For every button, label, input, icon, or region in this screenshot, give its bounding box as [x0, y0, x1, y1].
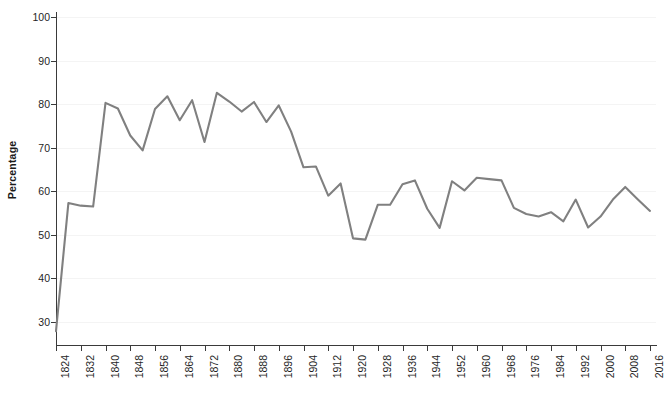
x-tick-mark — [106, 346, 107, 351]
x-tick-label: 1936 — [407, 355, 418, 378]
x-tick-label: 2008 — [629, 355, 640, 378]
x-tick-label: 1848 — [134, 355, 145, 378]
x-tick-mark — [229, 346, 230, 351]
x-tick-mark — [576, 346, 577, 351]
x-tick-label: 1896 — [283, 355, 294, 378]
x-tick-label: 1904 — [308, 355, 319, 378]
y-tick-label: 80 — [20, 99, 50, 110]
x-tick-label: 2016 — [654, 355, 665, 378]
x-tick-label: 1880 — [233, 355, 244, 378]
y-tick-label: 70 — [20, 142, 50, 153]
x-tick-mark — [254, 346, 255, 351]
x-tick-mark — [378, 346, 379, 351]
x-tick-mark — [304, 346, 305, 351]
x-tick-mark — [650, 346, 651, 351]
y-tick-label: 50 — [20, 230, 50, 241]
x-tick-mark — [601, 346, 602, 351]
y-tick-label: 100 — [20, 12, 50, 23]
x-tick-label: 1888 — [258, 355, 269, 378]
x-tick-mark — [180, 346, 181, 351]
x-tick-mark — [452, 346, 453, 351]
x-tick-mark — [502, 346, 503, 351]
x-tick-mark — [625, 346, 626, 351]
x-tick-label: 1952 — [456, 355, 467, 378]
x-tick-mark — [403, 346, 404, 351]
voter-turnout-line-chart: Percentage 30405060708090100182418321840… — [0, 0, 668, 399]
y-tick-label: 30 — [20, 317, 50, 328]
x-tick-label: 1992 — [580, 355, 591, 378]
x-tick-mark — [155, 346, 156, 351]
x-tick-mark — [353, 346, 354, 351]
turnout-line-series — [56, 93, 650, 331]
x-tick-mark — [130, 346, 131, 351]
x-tick-mark — [56, 346, 57, 351]
x-tick-label: 1976 — [530, 355, 541, 378]
x-tick-mark — [205, 346, 206, 351]
x-tick-label: 1872 — [209, 355, 220, 378]
x-tick-mark — [526, 346, 527, 351]
x-tick-label: 1944 — [431, 355, 442, 378]
x-tick-label: 1928 — [382, 355, 393, 378]
x-tick-label: 1912 — [332, 355, 343, 378]
x-tick-label: 2000 — [605, 355, 616, 378]
x-tick-label: 1968 — [506, 355, 517, 378]
x-tick-label: 1856 — [159, 355, 170, 378]
x-tick-label: 1840 — [110, 355, 121, 378]
x-tick-label: 1984 — [555, 355, 566, 378]
x-tick-label: 1832 — [85, 355, 96, 378]
data-series-layer — [0, 0, 668, 399]
x-tick-label: 1864 — [184, 355, 195, 378]
y-tick-label: 60 — [20, 186, 50, 197]
x-tick-mark — [279, 346, 280, 351]
y-tick-label: 40 — [20, 273, 50, 284]
x-tick-label: 1920 — [357, 355, 368, 378]
x-tick-label: 1960 — [481, 355, 492, 378]
x-tick-label: 1824 — [60, 355, 71, 378]
x-tick-mark — [477, 346, 478, 351]
x-tick-mark — [81, 346, 82, 351]
y-tick-label: 90 — [20, 55, 50, 66]
x-tick-mark — [328, 346, 329, 351]
x-tick-mark — [427, 346, 428, 351]
x-tick-mark — [551, 346, 552, 351]
